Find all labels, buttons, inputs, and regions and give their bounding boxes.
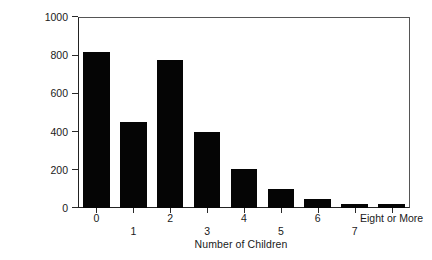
x-tick-label: 6	[315, 213, 321, 224]
bar	[120, 122, 147, 208]
y-tick-label: 800	[20, 50, 68, 60]
y-tick-label: 400	[20, 127, 68, 137]
x-tick-label: Eight or More	[360, 213, 423, 224]
y-tick-label: 200	[20, 165, 68, 175]
x-tick-label: 1	[130, 226, 136, 237]
x-tick-label: 7	[352, 226, 358, 237]
y-tick-label-text: 800	[24, 50, 68, 60]
bar	[304, 199, 331, 208]
y-tick-label-text: 600	[24, 88, 68, 98]
bar	[83, 52, 110, 208]
bar	[268, 189, 295, 208]
y-tick-label: 1000	[20, 12, 68, 22]
y-tick-label-text: 400	[24, 127, 68, 137]
bars-layer	[78, 17, 410, 208]
bar-chart: Frequency 02004006008001000 01234567Eigh…	[0, 0, 432, 260]
x-tick-label: 0	[94, 213, 100, 224]
x-tick-mark	[133, 208, 134, 213]
y-tick-label-text: 1000	[24, 12, 68, 22]
x-axis-title: Number of Children	[0, 238, 432, 250]
y-tick-label: 600	[20, 88, 68, 98]
x-axis-title-text: Number of Children	[195, 238, 288, 250]
bar	[157, 60, 184, 208]
bar	[194, 132, 221, 208]
x-tick-label: 2	[167, 213, 173, 224]
x-tick-mark	[207, 208, 208, 213]
y-tick-label: 0	[20, 203, 68, 213]
y-tick-label-text: 0	[24, 203, 68, 213]
x-tick-mark	[281, 208, 282, 213]
x-tick-label: 3	[204, 226, 210, 237]
x-tick-label: 5	[278, 226, 284, 237]
x-tick-label: 4	[241, 213, 247, 224]
x-tick-mark	[355, 208, 356, 213]
y-tick-label-text: 200	[24, 165, 68, 175]
bar	[231, 169, 258, 208]
